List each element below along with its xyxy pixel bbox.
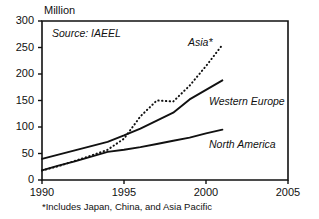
chart-container: Million Source: IAEEL Asia* Western Euro…: [0, 0, 319, 219]
x-tick-1990: 1990: [22, 186, 62, 198]
x-tick-1995: 1995: [104, 186, 144, 198]
chart-footnote: *Includes Japan, China, and Asia Pacific: [42, 201, 212, 212]
x-tick-2005: 2005: [268, 186, 308, 198]
y-tick-200: 200: [2, 67, 34, 79]
series-line-north-america: [42, 130, 222, 171]
y-tick-0: 0: [2, 173, 34, 185]
series-line-western-europe: [42, 80, 222, 158]
series-label-north-america: North America: [209, 138, 276, 150]
series-label-asia: Asia*: [188, 36, 213, 48]
x-tick-2000: 2000: [186, 186, 226, 198]
y-tick-250: 250: [2, 41, 34, 53]
y-tick-150: 150: [2, 94, 34, 106]
series-label-western-europe: Western Europe: [209, 95, 285, 107]
y-tick-100: 100: [2, 120, 34, 132]
y-tick-50: 50: [2, 147, 34, 159]
y-tick-300: 300: [2, 14, 34, 26]
